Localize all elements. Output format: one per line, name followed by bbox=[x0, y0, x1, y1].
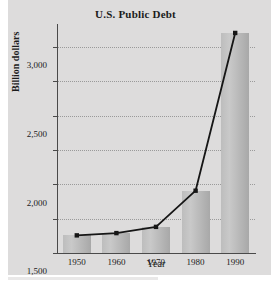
x-tick-label: 1950 bbox=[68, 257, 86, 267]
plot-area: 05001,0001,5002,0002,5003,000 1950196019… bbox=[57, 30, 255, 253]
data-point-marker bbox=[154, 225, 158, 229]
data-point-marker bbox=[114, 231, 118, 235]
x-axis-line bbox=[57, 253, 256, 254]
chart-title: U.S. Public Debt bbox=[0, 8, 271, 20]
y-tick-label: 3,000 bbox=[27, 60, 47, 70]
bottom-rule bbox=[8, 277, 158, 280]
x-tick-label: 1970 bbox=[147, 257, 165, 267]
y-tick-label: 2,000 bbox=[27, 198, 47, 208]
y-tick-label: 1,500 bbox=[27, 266, 47, 276]
trend-polyline bbox=[77, 33, 235, 235]
data-point-marker bbox=[233, 31, 237, 35]
y-axis-line bbox=[57, 24, 58, 253]
x-tick-label: 1980 bbox=[187, 257, 205, 267]
data-point-markers bbox=[75, 31, 238, 238]
y-axis-label: Billion dollars bbox=[10, 32, 21, 92]
x-tick-label: 1990 bbox=[226, 257, 244, 267]
x-tick-label: 1960 bbox=[107, 257, 125, 267]
line-series bbox=[57, 30, 255, 253]
figure: U.S. Public Debt Billion dollars Year 05… bbox=[0, 0, 271, 293]
y-tick-label: 2,500 bbox=[27, 129, 47, 139]
data-point-marker bbox=[75, 233, 79, 237]
data-point-marker bbox=[193, 189, 197, 193]
